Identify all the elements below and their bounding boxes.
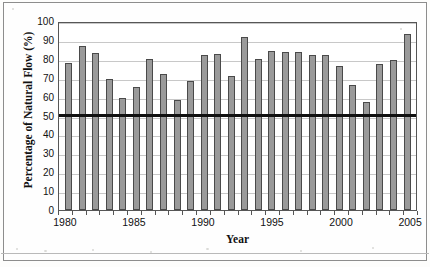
x-tick-mark-24 [389, 211, 390, 215]
x-tick-mark-2 [86, 211, 87, 215]
y-axis-tick-0: 0 [24, 206, 54, 216]
x-tick-mark-6 [141, 211, 142, 215]
x-axis-tick-1990: 1990 [191, 216, 214, 228]
x-tick-mark-4 [113, 211, 114, 215]
plot-area [58, 22, 417, 211]
y-axis-tick-labels: 1009080706050403020100 [24, 22, 54, 211]
x-tick-mark-14 [251, 211, 252, 215]
x-tick-mark-20 [334, 211, 335, 215]
bar-1997[interactable] [295, 52, 302, 210]
y-axis-tick-50: 50 [24, 112, 54, 122]
bar-2005[interactable] [404, 34, 411, 210]
bar-1985[interactable] [133, 87, 140, 210]
bar-1993[interactable] [241, 37, 248, 210]
bar-1994[interactable] [255, 59, 262, 210]
y-axis-tick-90: 90 [24, 36, 54, 46]
y-axis-tick-100: 100 [24, 17, 54, 27]
scan-speck [206, 248, 209, 250]
x-tick-mark-11 [210, 211, 211, 215]
y-axis-tick-30: 30 [24, 149, 54, 159]
x-tick-mark-26 [417, 211, 418, 215]
x-axis-tick-2000: 2000 [329, 216, 352, 228]
figure-page: Percentage of Natural Flow (%) 100908070… [0, 0, 430, 267]
bar-1983[interactable] [106, 79, 113, 210]
bar-1998[interactable] [309, 55, 316, 210]
bar-1987[interactable] [160, 74, 167, 210]
bar-1981[interactable] [79, 46, 86, 210]
x-tick-mark-19 [320, 211, 321, 215]
scan-speck [300, 250, 302, 252]
x-axis-title: Year [58, 233, 417, 245]
bar-2003[interactable] [376, 64, 383, 210]
bar-1992[interactable] [228, 76, 235, 210]
bar-1995[interactable] [268, 51, 275, 210]
scan-speck [44, 250, 47, 252]
x-tick-mark-25 [403, 211, 404, 215]
y-axis-tick-60: 60 [24, 93, 54, 103]
bar-1996[interactable] [282, 52, 289, 210]
x-tick-mark-3 [99, 211, 100, 215]
x-tick-mark-21 [348, 211, 349, 215]
bar-2002[interactable] [363, 102, 370, 210]
x-tick-mark-0 [58, 211, 59, 215]
scan-speck [12, 8, 14, 10]
x-tick-mark-23 [376, 211, 377, 215]
figure-border-bottom [1, 253, 429, 254]
x-tick-mark-17 [293, 211, 294, 215]
x-tick-mark-8 [168, 211, 169, 215]
x-tick-mark-18 [307, 211, 308, 215]
x-tick-mark-1 [72, 211, 73, 215]
x-tick-mark-7 [155, 211, 156, 215]
x-axis-tick-1980: 1980 [53, 216, 76, 228]
x-axis-tick-1995: 1995 [260, 216, 283, 228]
x-tick-mark-5 [127, 211, 128, 215]
y-axis-tick-20: 20 [24, 168, 54, 178]
bar-2004[interactable] [390, 60, 397, 210]
x-tick-mark-15 [265, 211, 266, 215]
x-tick-mark-13 [238, 211, 239, 215]
bar-2000[interactable] [336, 66, 343, 210]
y-axis-tick-40: 40 [24, 130, 54, 140]
x-tick-mark-22 [362, 211, 363, 215]
bar-1980[interactable] [65, 63, 72, 210]
x-axis-tick-2005: 2005 [398, 216, 421, 228]
x-axis-tick-labels: 198019851990199520002005 [58, 216, 417, 232]
bar-1991[interactable] [214, 54, 221, 210]
x-tick-mark-10 [196, 211, 197, 215]
bar-2001[interactable] [349, 85, 356, 210]
bar-1999[interactable] [322, 55, 329, 210]
x-tick-mark-12 [224, 211, 225, 215]
bar-1986[interactable] [146, 59, 153, 210]
scan-speck [92, 249, 94, 251]
reference-line-50-percent [59, 114, 416, 117]
x-tick-mark-16 [279, 211, 280, 215]
y-axis-tick-10: 10 [24, 187, 54, 197]
y-axis-tick-70: 70 [24, 74, 54, 84]
scan-speck [16, 248, 18, 250]
x-axis-tick-1985: 1985 [122, 216, 145, 228]
y-axis-tick-80: 80 [24, 55, 54, 65]
bar-1982[interactable] [92, 53, 99, 210]
bar-1990[interactable] [201, 55, 208, 210]
x-tick-mark-9 [182, 211, 183, 215]
scan-speck [372, 247, 374, 249]
bar-1989[interactable] [187, 81, 194, 210]
